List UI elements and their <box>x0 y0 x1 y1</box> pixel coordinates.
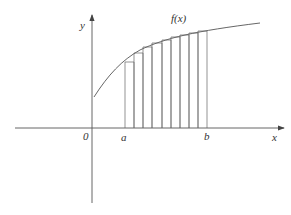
x-axis-label: x <box>271 131 277 143</box>
rectangle-7 <box>180 35 189 128</box>
rectangle-2 <box>134 53 143 128</box>
rectangle-3 <box>143 47 152 128</box>
riemann-sum-diagram: f(x) y x 0 a b <box>0 0 291 215</box>
function-label: f(x) <box>171 12 187 25</box>
rectangle-5 <box>162 40 171 128</box>
function-curve <box>94 23 260 97</box>
rectangle-8 <box>189 33 198 128</box>
b-label: b <box>204 130 210 142</box>
a-label: a <box>121 131 127 143</box>
rectangle-6 <box>171 37 180 128</box>
rectangle-4 <box>152 43 162 128</box>
rectangle-1 <box>125 62 134 128</box>
riemann-rectangles <box>125 31 207 128</box>
y-axis-label: y <box>79 19 85 31</box>
origin-label: 0 <box>83 130 89 142</box>
rectangle-9 <box>198 31 207 128</box>
